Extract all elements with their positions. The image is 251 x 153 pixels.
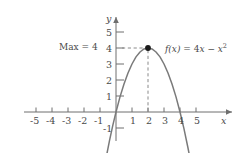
equation-exponent: 2 xyxy=(223,42,227,50)
equation-equals: = 4 xyxy=(180,44,199,54)
x-tick-label-neg5: -5 xyxy=(30,116,39,126)
x-tick-label-neg2: -2 xyxy=(78,116,87,126)
y-axis-arrow-icon xyxy=(113,17,119,23)
x-tick-label-2: 2 xyxy=(146,116,152,126)
x-axis-arrow-icon xyxy=(226,109,232,115)
vertex-point-marker xyxy=(145,45,151,51)
y-tick-label-3: 3 xyxy=(106,60,112,70)
plot-canvas xyxy=(0,0,251,153)
x-tick-label-3: 3 xyxy=(162,116,168,126)
y-tick-label-neg1: -1 xyxy=(103,124,112,134)
x-tick-label-4: 4 xyxy=(178,116,184,126)
y-axis-ticks xyxy=(116,32,124,128)
y-tick-label-1: 1 xyxy=(106,92,112,102)
equation-fx: f(x) xyxy=(165,44,180,54)
x-tick-label-1: 1 xyxy=(130,116,136,126)
parabola-figure: -5 -4 -3 -2 -1 1 2 3 4 5 5 4 3 2 1 -1 x … xyxy=(0,0,251,153)
x-tick-label-neg1: -1 xyxy=(94,116,103,126)
max-value-annotation: Max = 4 xyxy=(59,43,98,52)
y-tick-label-2: 2 xyxy=(106,76,112,86)
equation-minus: − xyxy=(205,44,218,54)
function-equation-annotation: f(x) = 4x − x2 xyxy=(165,43,227,54)
y-axis-label: y xyxy=(106,14,111,24)
x-tick-label-neg3: -3 xyxy=(62,116,71,126)
x-axis-label: x xyxy=(221,116,226,126)
x-tick-label-5: 5 xyxy=(194,116,200,126)
y-tick-label-4: 4 xyxy=(106,44,112,54)
y-tick-label-5: 5 xyxy=(106,28,112,38)
x-tick-label-neg4: -4 xyxy=(46,116,55,126)
